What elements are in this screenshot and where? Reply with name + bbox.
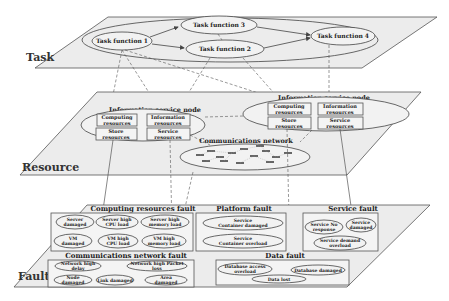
task-function-4-label: Task function 4 <box>317 32 369 39</box>
box-label: resources <box>103 120 130 126</box>
computing-fault-title: Computing resources fault <box>90 204 196 213</box>
service-fault-title: Service fault <box>328 204 378 213</box>
box-label: resources <box>275 109 302 115</box>
computing-resources-fault: Computing resources fault Server damaged… <box>51 204 196 251</box>
task-function-3-label: Task function 3 <box>193 21 245 28</box>
box-label: resources <box>154 134 181 140</box>
box-label: resources <box>275 123 302 129</box>
fault-layer-label: Fault <box>18 270 51 283</box>
fault-label: overload <box>329 243 351 248</box>
box-label: resources <box>102 134 129 140</box>
fault-label: damaged <box>62 241 86 246</box>
task-function-2-label: Task function 2 <box>199 45 251 52</box>
network-outline <box>180 144 310 170</box>
fault-label: Container overload <box>219 241 268 246</box>
resource-layer-label: Resource <box>22 161 79 174</box>
box-label: resources <box>326 123 353 129</box>
box-label: resources <box>326 109 353 115</box>
box-label: resources <box>154 120 181 126</box>
fault-label: damaged <box>350 225 374 230</box>
communications-network-fault: Communications network fault Network hig… <box>48 251 194 287</box>
fault-label: damaged <box>64 222 88 227</box>
fault-label: Link damaged <box>97 278 134 283</box>
platform-fault-title: Platform fault <box>216 204 272 213</box>
task-layer: Task Task function 1 Task function 3 Tas… <box>26 16 437 68</box>
data-fault-title: Data fault <box>265 251 305 260</box>
task-layer-label: Task <box>26 51 54 64</box>
fault-label: memory load <box>148 241 182 246</box>
fault-label: Container damaged <box>218 223 268 228</box>
network-fault-title: Communications network fault <box>65 251 187 260</box>
fault-label: damaged <box>155 280 179 285</box>
fault-label: Data lost <box>268 277 292 282</box>
fault-label: CPU load <box>106 241 130 246</box>
fault-label: memory load <box>149 222 183 227</box>
fault-label: delay <box>71 266 85 271</box>
communications-network[interactable]: Communications network <box>180 137 310 170</box>
fault-label: Database damaged <box>294 268 343 273</box>
task-function-1-label: Task function 1 <box>96 37 148 44</box>
fault-label: CPU load <box>105 222 129 227</box>
fault-label: damaged <box>62 280 86 285</box>
fault-label: overload <box>234 269 256 274</box>
fault-label: response <box>313 227 336 232</box>
resource-layer: Resource Information service node Comput… <box>20 92 421 175</box>
fault-layer: Fault Computing resources fault Server d… <box>14 204 430 287</box>
three-layer-diagram: Task Task function 1 Task function 3 Tas… <box>0 0 449 301</box>
fault-label: loss <box>152 266 162 271</box>
